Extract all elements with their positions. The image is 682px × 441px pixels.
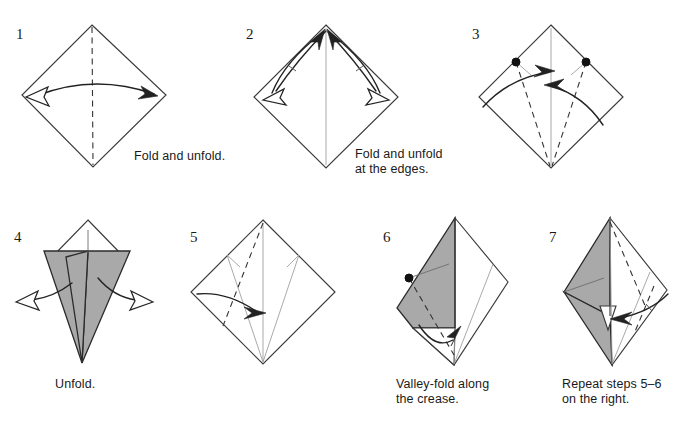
figure-step-5 (182, 212, 342, 372)
caption-step-7-line-2: on the right. (562, 392, 629, 406)
caption-step-7: Repeat steps 5–6on the right. (562, 377, 662, 407)
left-gray-flap-step-6 (397, 218, 455, 328)
reference-dot-step-6 (405, 274, 413, 282)
origami-diagram-sheet: 1 Fold and unfold. 2 Fold and unfoldat t… (0, 0, 682, 441)
caption-step-2: Fold and unfoldat the edges. (355, 147, 443, 177)
caption-step-1: Fold and unfold. (134, 149, 225, 164)
caption-step-2-line-1: Fold and unfold (355, 147, 443, 161)
figure-step-4 (10, 215, 165, 375)
figure-step-7 (542, 212, 682, 377)
caption-step-6: Valley-fold alongthe crease. (396, 377, 489, 407)
reference-dot-left-step-3 (512, 58, 520, 66)
figure-step-6 (375, 212, 535, 377)
arrow-head-left-hollow-step-4 (16, 291, 39, 310)
caption-step-6-line-1: Valley-fold along (396, 377, 489, 391)
arrow-head-right-hollow-step-4 (130, 291, 153, 310)
reference-dot-right-step-3 (582, 58, 590, 66)
caption-step-2-line-2: at the edges. (355, 162, 429, 176)
figure-step-3 (465, 15, 640, 180)
caption-step-6-line-2: the crease. (396, 392, 459, 406)
right-gray-flap-step-4 (82, 251, 130, 363)
caption-step-7-line-1: Repeat steps 5–6 (562, 377, 662, 391)
caption-step-4: Unfold. (55, 377, 95, 392)
